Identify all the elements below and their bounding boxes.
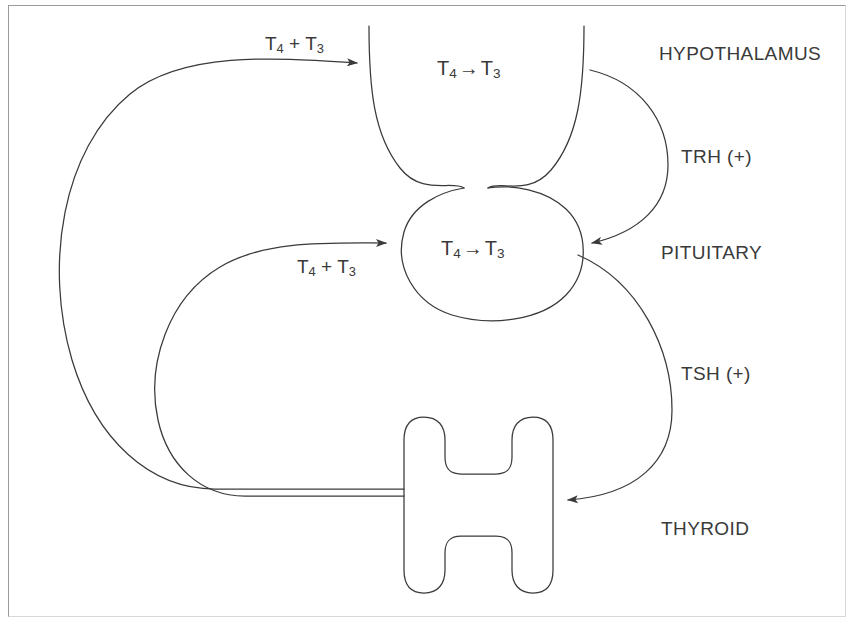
- hypothalamus-t4: T4: [437, 57, 457, 79]
- pituitary-conversion-arrow-icon: →: [461, 237, 485, 259]
- feedback-pituitary-plus-icon: +: [321, 256, 332, 277]
- hypothalamus-conversion-label: T4→T3: [437, 57, 501, 81]
- feedback-pituitary-label: T4 + T3: [297, 256, 356, 279]
- feedback-pituitary-pathway: [155, 243, 404, 496]
- thyroid-outline: [404, 417, 553, 593]
- feedback-hypothalamus-label: T4 + T3: [265, 33, 324, 56]
- pituitary-label: PITUITARY: [661, 242, 762, 264]
- hypothalamus-t3: T3: [481, 57, 501, 79]
- feedback-pituitary-t3: T3: [337, 256, 356, 277]
- feedback-hypothalamus-plus-icon: +: [289, 33, 300, 54]
- hypothalamus-conversion-arrow-icon: →: [457, 57, 481, 79]
- trh-label: TRH (+): [681, 146, 752, 168]
- thyroid-axis-diagram: T4→T3 T4→T3 T4 + T3 T4 + T3 HYPOTHALAMUS…: [0, 0, 851, 618]
- trh-pathway: [590, 70, 668, 243]
- thyroid-label: THYROID: [661, 518, 749, 540]
- feedback-hypothalamus-t3: T3: [305, 33, 324, 54]
- feedback-hypothalamus-t4: T4: [265, 33, 284, 54]
- hypothalamus-left-outline: [369, 26, 464, 188]
- pituitary-t4: T4: [441, 237, 461, 259]
- tsh-label: TSH (+): [681, 363, 751, 385]
- hypothalamus-right-outline: [488, 26, 584, 188]
- pituitary-conversion-label: T4→T3: [441, 237, 505, 261]
- tsh-pathway: [568, 255, 672, 500]
- hypothalamus-label: HYPOTHALAMUS: [659, 43, 821, 65]
- feedback-pituitary-t4: T4: [297, 256, 316, 277]
- pituitary-t3: T3: [485, 237, 505, 259]
